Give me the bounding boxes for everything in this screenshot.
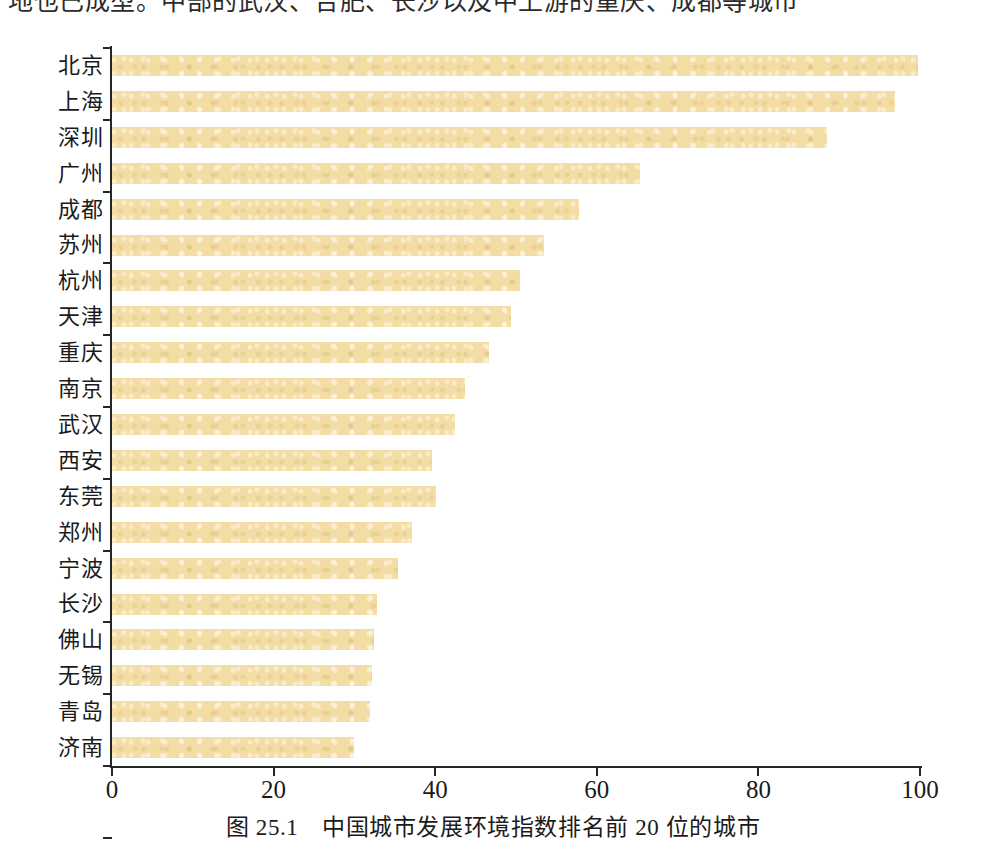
- bar-武汉: [112, 414, 455, 435]
- bar-杭州: [112, 270, 520, 291]
- y-axis-label-长沙: 长沙: [8, 592, 104, 616]
- y-axis-label-苏州: 苏州: [8, 233, 104, 257]
- y-axis-label-济南: 济南: [8, 736, 104, 760]
- y-axis-label-上海: 上海: [8, 90, 104, 114]
- x-axis-tick: [596, 766, 598, 776]
- bar-济南: [112, 737, 354, 758]
- y-axis-tick: [103, 406, 112, 408]
- bar-佛山: [112, 629, 374, 650]
- bar-上海: [112, 91, 895, 112]
- y-axis-label-重庆: 重庆: [8, 341, 104, 365]
- x-axis-tick: [757, 766, 759, 776]
- y-axis-label-东莞: 东莞: [8, 485, 104, 509]
- bar-郑州: [112, 522, 412, 543]
- bar-重庆: [112, 342, 489, 363]
- x-axis-tick: [919, 766, 921, 776]
- y-axis-label-天津: 天津: [8, 305, 104, 329]
- bar-广州: [112, 163, 640, 184]
- x-axis-tick-label-60: 60: [584, 776, 609, 804]
- y-axis-label-杭州: 杭州: [8, 269, 104, 293]
- y-axis-label-南京: 南京: [8, 377, 104, 401]
- bar-无锡: [112, 665, 372, 686]
- y-axis-tick: [103, 47, 112, 49]
- x-axis-tick-label-40: 40: [423, 776, 448, 804]
- bar-深圳: [112, 127, 827, 148]
- y-axis-tick: [103, 478, 112, 480]
- bar-宁波: [112, 558, 398, 579]
- x-axis-tick-label-80: 80: [746, 776, 771, 804]
- bar-成都: [112, 199, 579, 220]
- bar-青岛: [112, 701, 370, 722]
- bar-chart-figure: 北京上海深圳广州成都苏州杭州天津重庆南京武汉西安东莞郑州宁波长沙佛山无锡青岛济南…: [0, 0, 986, 849]
- y-axis-label-佛山: 佛山: [8, 628, 104, 652]
- plot-area: [112, 48, 920, 766]
- y-axis-tick: [103, 191, 112, 193]
- bar-西安: [112, 450, 432, 471]
- y-axis-tick: [103, 262, 112, 264]
- x-axis-tick-label-0: 0: [106, 776, 119, 804]
- bar-北京: [112, 55, 918, 76]
- y-axis-label-成都: 成都: [8, 198, 104, 222]
- y-axis-category-labels: 北京上海深圳广州成都苏州杭州天津重庆南京武汉西安东莞郑州宁波长沙佛山无锡青岛济南: [0, 48, 104, 766]
- y-axis-label-北京: 北京: [8, 54, 104, 78]
- bar-苏州: [112, 235, 544, 256]
- x-axis-tick-label-20: 20: [261, 776, 286, 804]
- y-axis-label-广州: 广州: [8, 162, 104, 186]
- y-axis-label-青岛: 青岛: [8, 700, 104, 724]
- y-axis-tick: [103, 693, 112, 695]
- y-axis-tick: [103, 621, 112, 623]
- y-axis-label-西安: 西安: [8, 449, 104, 473]
- bar-东莞: [112, 486, 436, 507]
- x-axis-tick: [273, 766, 275, 776]
- y-axis-tick: [103, 334, 112, 336]
- bar-南京: [112, 378, 465, 399]
- y-axis-tick: [103, 119, 112, 121]
- y-axis-label-郑州: 郑州: [8, 521, 104, 545]
- x-axis-line: [110, 766, 922, 768]
- y-axis-label-武汉: 武汉: [8, 413, 104, 437]
- bar-天津: [112, 306, 511, 327]
- x-axis-tick: [111, 766, 113, 776]
- bar-长沙: [112, 594, 377, 615]
- figure-caption: 图 25.1 中国城市发展环境指数排名前 20 位的城市: [0, 808, 986, 842]
- y-axis-label-深圳: 深圳: [8, 126, 104, 150]
- y-axis-label-无锡: 无锡: [8, 664, 104, 688]
- y-axis-label-宁波: 宁波: [8, 557, 104, 581]
- y-axis-tick: [103, 550, 112, 552]
- x-axis-tick-label-100: 100: [901, 776, 939, 804]
- x-axis-tick: [434, 766, 436, 776]
